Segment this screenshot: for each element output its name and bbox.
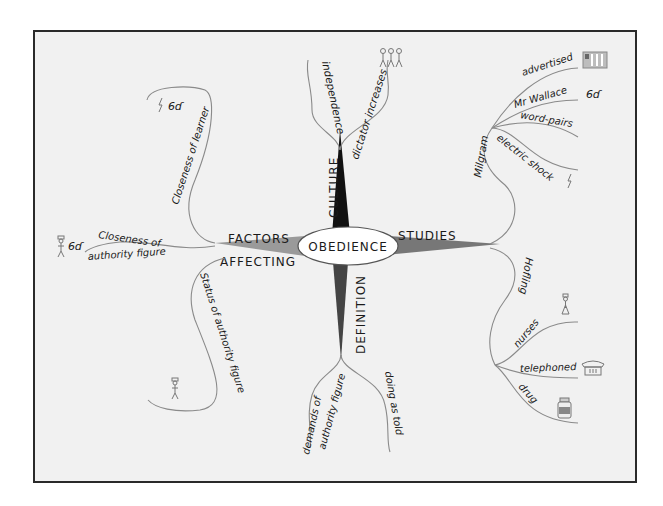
branch-definition-label[interactable]: DEFINITION xyxy=(354,275,368,354)
hofling-child-drug[interactable]: drug xyxy=(517,381,541,406)
definition-sub-demands-line2[interactable]: authority figure xyxy=(316,372,347,450)
definition-split-right xyxy=(341,355,390,452)
lightning-icon xyxy=(159,98,162,112)
newspaper-icon xyxy=(583,52,607,68)
milgram-child-mr-wallace[interactable]: Mr Wallace xyxy=(513,84,569,110)
glasses-icon: 6ɗ xyxy=(168,100,185,113)
milgram-child-word-pairs[interactable]: word-pairs xyxy=(520,109,574,129)
culture-sub-independence[interactable]: independence xyxy=(320,60,347,135)
branch-factors-line2[interactable]: AFFECTING xyxy=(220,255,296,269)
factors-sub-closeness-authority-line2[interactable]: authority figure xyxy=(87,246,166,262)
hofling-child-telephoned[interactable]: telephoned xyxy=(520,361,578,374)
branch-culture-label[interactable]: CULTURE xyxy=(327,157,341,218)
branch-factors-line1[interactable]: FACTORS xyxy=(228,232,290,246)
factors-sub-status-authority[interactable]: Status of authority figure xyxy=(198,271,247,394)
branch-studies-label[interactable]: STUDIES xyxy=(398,229,457,243)
milgram-child-advertised[interactable]: advertised xyxy=(520,51,574,78)
telephone-icon xyxy=(582,361,604,375)
three-people-icon xyxy=(380,49,402,68)
authority-figure-icon xyxy=(58,236,64,257)
definition-wedge xyxy=(333,262,348,360)
central-topic: OBEDIENCE xyxy=(308,240,388,254)
glasses-icon: 6ɗ xyxy=(586,88,603,101)
definition-sub-doing-as-told[interactable]: doing as told xyxy=(383,370,405,436)
glasses-icon: 6ɗ xyxy=(68,240,85,253)
hofling-child-nurses[interactable]: nurses xyxy=(511,317,541,350)
factors-sub-closeness-learner[interactable]: Closeness of learner xyxy=(169,104,211,205)
mind-map: OBEDIENCE CULTURE independence dictator … xyxy=(0,0,663,506)
nurse-icon xyxy=(562,294,569,314)
milgram-child-electric-shock[interactable]: electric shock xyxy=(495,132,557,184)
studies-sub-hofling[interactable]: Hofling xyxy=(517,257,535,296)
authority-figure-icon xyxy=(172,378,178,399)
studies-hofling-branch xyxy=(490,248,515,365)
culture-sub-dictator-increases[interactable]: dictator increases xyxy=(348,67,389,161)
lightning-icon xyxy=(568,174,571,188)
factors-status-branch xyxy=(148,258,225,411)
studies-sub-milgram[interactable]: Milgram xyxy=(471,134,490,178)
medicine-bottle-icon xyxy=(558,398,571,418)
